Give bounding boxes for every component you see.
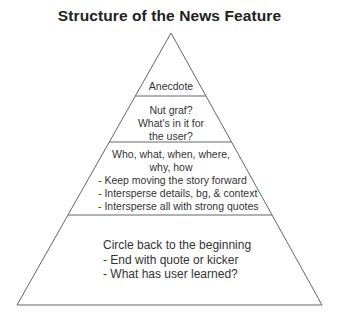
section-body-heading: Who, what, when, where, why, how [101,148,241,174]
body-heading-line-1: Who, what, when, where, [101,148,241,161]
nut-graf-line-2: What's in it for [121,117,221,130]
section-ending: Circle back to the beginning - End with … [103,238,263,282]
body-bullet: - Intersperse details, bg, & context [98,187,258,200]
body-bullet: - Keep moving the story forward [98,174,258,187]
body-bullet: - Intersperse all with strong quotes [98,200,258,213]
body-heading-line-2: why, how [101,161,241,174]
section-anecdote-text: Anecdote [121,80,221,93]
section-anecdote: Anecdote [121,80,221,93]
ending-bullet: - End with quote or kicker [103,253,263,268]
section-nut-graf: Nut graf? What's in it for the user? [121,104,221,143]
nut-graf-line-3: the user? [121,130,221,143]
ending-heading: Circle back to the beginning [103,238,263,253]
section-body-bullets: - Keep moving the story forward - Inters… [98,174,258,213]
nut-graf-line-1: Nut graf? [121,104,221,117]
ending-bullet: - What has user learned? [103,267,263,282]
